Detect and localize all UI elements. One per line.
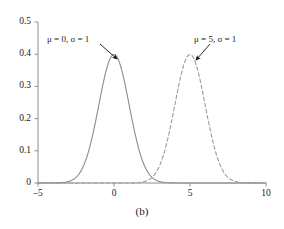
y-tick-label: 0 xyxy=(0,178,31,188)
figure-panel: 00.10.20.30.40.5–50510 μ = 0, σ = 1μ = 5… xyxy=(0,0,284,229)
y-tick-label: 0.2 xyxy=(0,114,31,124)
curve-label-left: μ = 0, σ = 1 xyxy=(47,35,89,44)
x-tick-label: –5 xyxy=(18,189,58,199)
figure-caption: (b) xyxy=(0,206,284,217)
axes-group xyxy=(38,22,266,183)
x-tick-label: 0 xyxy=(94,189,134,199)
curve-label-right: μ = 5, σ = 1 xyxy=(194,35,236,44)
y-tick-label: 0.3 xyxy=(0,81,31,91)
y-axis-ticks xyxy=(35,22,39,183)
curve-label-left-arrow xyxy=(100,44,117,59)
distribution-curves xyxy=(38,55,266,183)
y-tick-label: 0.4 xyxy=(0,49,31,59)
curve-normal-mu5-sigma1 xyxy=(38,55,266,183)
curve-label-right-arrow xyxy=(196,44,210,60)
y-tick-label: 0.1 xyxy=(0,146,31,156)
curve-normal-mu0-sigma1 xyxy=(38,55,266,183)
y-tick-label: 0.5 xyxy=(0,17,31,27)
x-tick-label: 10 xyxy=(246,189,284,199)
x-tick-label: 5 xyxy=(170,189,210,199)
